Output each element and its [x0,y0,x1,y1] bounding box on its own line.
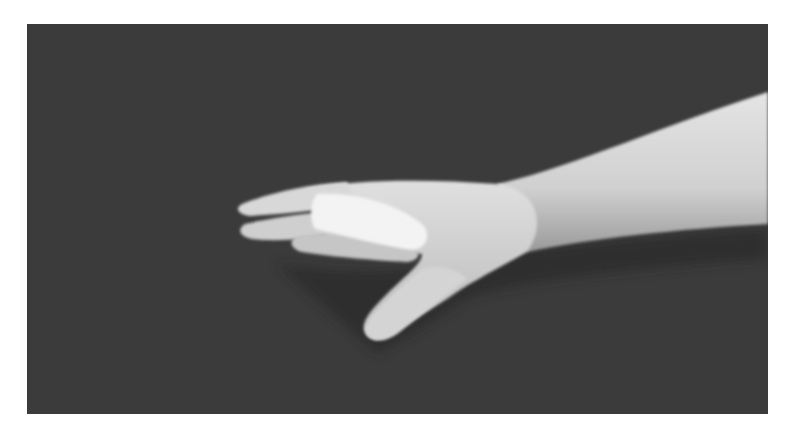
photograph: Grayscale photograph of a hand and forea… [27,24,768,414]
forearm [497,92,768,252]
hand-illustration [27,24,768,414]
